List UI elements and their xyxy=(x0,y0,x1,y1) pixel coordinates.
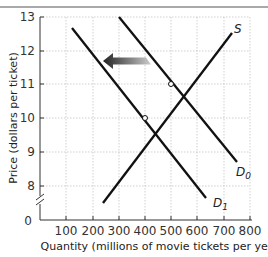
origin-label: 0 xyxy=(24,214,32,228)
demand-label-D1: D1 xyxy=(213,196,228,212)
equilibrium-point-new xyxy=(143,116,148,121)
x-axis-title: Quantity (millions of movie tickets per … xyxy=(41,240,268,253)
y-tick-10: 10 xyxy=(20,111,35,125)
supply-demand-chart: 13 12 11 10 9 8 0 100 200 300 400 500 60… xyxy=(0,0,268,257)
supply-label: S xyxy=(234,22,242,36)
x-tick-500: 500 xyxy=(160,224,183,238)
x-tick-100: 100 xyxy=(55,224,78,238)
y-tick-9: 9 xyxy=(27,145,35,159)
y-tick-11: 11 xyxy=(20,77,35,91)
demand-label-D0: D0 xyxy=(236,165,251,181)
y-axis-title: Price (dollars per ticket) xyxy=(7,52,20,183)
y-tick-13: 13 xyxy=(20,10,35,24)
x-tick-200: 200 xyxy=(82,224,105,238)
shift-left-arrow-icon xyxy=(103,53,151,69)
y-tick-8: 8 xyxy=(27,179,35,193)
x-tick-300: 300 xyxy=(108,224,131,238)
x-tick-600: 600 xyxy=(186,224,209,238)
demand-curve-D0 xyxy=(119,17,237,162)
x-tick-700: 700 xyxy=(213,224,236,238)
demand-curve-D1 xyxy=(72,28,206,198)
y-tick-12: 12 xyxy=(20,44,35,58)
equilibrium-point-initial xyxy=(169,82,174,87)
x-tick-800: 800 xyxy=(239,224,262,238)
x-tick-400: 400 xyxy=(134,224,157,238)
